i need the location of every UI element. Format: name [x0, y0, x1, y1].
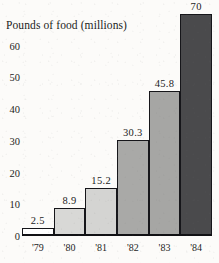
- x-axis-tick-label: '84: [190, 242, 202, 253]
- bar-81: [85, 188, 117, 236]
- bar-value-label: 15.2: [91, 175, 111, 186]
- bar-value-label: 2.5: [31, 215, 45, 226]
- plot-area: 2.5'798.9'8015.2'8130.3'8245.8'8370'84: [22, 0, 212, 263]
- bar-83: [149, 91, 181, 236]
- bar-80: [54, 208, 86, 236]
- bar-value-label: 8.9: [62, 195, 76, 206]
- y-axis-tick-label: 40: [0, 104, 20, 115]
- y-axis-tick-label: 50: [0, 72, 20, 83]
- y-axis-tick-label: 20: [0, 167, 20, 178]
- bar-group: 15.2'81: [85, 188, 117, 236]
- x-axis-tick-label: '83: [159, 242, 171, 253]
- chart-title: Pounds of food (millions): [6, 19, 127, 31]
- bar-group: 70'84: [180, 14, 212, 236]
- bar-group: 45.8'83: [149, 91, 181, 236]
- bar-group: 8.9'80: [54, 208, 86, 236]
- bar-value-label: 30.3: [123, 127, 143, 138]
- bar-value-label: 70: [191, 1, 202, 12]
- x-axis-tick-label: '79: [32, 242, 44, 253]
- bar-chart: Pounds of food (millions) 0102030405060 …: [0, 0, 219, 263]
- y-axis-tick-label: 10: [0, 199, 20, 210]
- bar-group: 30.3'82: [117, 140, 149, 236]
- bar-84: [180, 14, 212, 236]
- y-axis-tick-label: 0: [0, 231, 20, 242]
- x-axis-tick-label: '80: [64, 242, 76, 253]
- x-axis-tick-label: '82: [127, 242, 139, 253]
- y-axis: 0102030405060: [0, 0, 20, 263]
- bar-value-label: 45.8: [155, 78, 175, 89]
- x-axis-line: [22, 234, 212, 236]
- y-axis-tick-label: 30: [0, 135, 20, 146]
- y-axis-tick-label: 60: [0, 40, 20, 51]
- bar-82: [117, 140, 149, 236]
- x-axis-tick-label: '81: [95, 242, 107, 253]
